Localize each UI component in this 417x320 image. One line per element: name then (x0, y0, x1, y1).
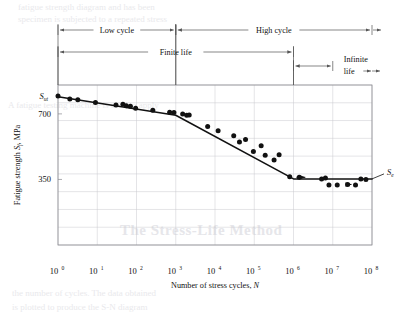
x-tick-2: 102 (128, 265, 143, 276)
x-axis-title: Number of stress cycles, N (171, 281, 260, 290)
data-point (150, 108, 155, 113)
y-axis-tick-labels: 700350 (38, 109, 62, 185)
x-tick-exponent: 0 (62, 265, 65, 271)
fatigue-sn-diagram: Low cycleHigh cycleFinite lifeInfiniteli… (0, 0, 417, 320)
x-tick-mantissa: 10 (285, 266, 294, 276)
data-point (272, 157, 277, 162)
x-tick-exponent: 3 (179, 265, 182, 271)
data-point (353, 183, 358, 188)
x-tick-exponent: 5 (258, 265, 261, 271)
x-tick-mantissa: 10 (325, 266, 334, 276)
x-tick-5: 105 (246, 265, 261, 276)
x-tick-3: 103 (168, 265, 183, 276)
annotation-label-2: life (344, 67, 355, 76)
data-point (113, 103, 118, 108)
annotation-label: Finite life (160, 48, 192, 57)
x-tick-mantissa: 10 (364, 266, 373, 276)
marker-sut: Sut (39, 91, 48, 102)
x-tick-mantissa: 10 (50, 266, 59, 276)
sn-diagram-svg: Low cycleHigh cycleFinite lifeInfiniteli… (0, 0, 417, 320)
x-tick-exponent: 8 (376, 265, 379, 271)
x-axis-tick-labels: 100101102103104105106107108 (50, 265, 379, 276)
se-leader-line (372, 174, 384, 179)
annotation-label: Infinite (344, 55, 368, 64)
x-tick-exponent: 4 (219, 265, 222, 271)
x-tick-mantissa: 10 (207, 266, 216, 276)
y-tick-700: 700 (38, 109, 51, 119)
data-point (251, 149, 256, 154)
x-tick-exponent: 6 (297, 265, 300, 271)
y-tick-350: 350 (38, 174, 51, 184)
se-label: Se (387, 167, 394, 178)
data-point (323, 176, 328, 181)
x-tick-exponent: 1 (101, 265, 104, 271)
data-point (187, 112, 192, 117)
data-point (237, 140, 242, 145)
data-point (326, 183, 331, 188)
data-point (75, 97, 80, 102)
data-point (231, 133, 236, 138)
x-tick-0: 100 (50, 265, 65, 276)
x-tick-8: 108 (364, 265, 379, 276)
annotations-layer: Low cycleHigh cycleFinite lifeInfiniteli… (58, 24, 381, 85)
data-point (167, 110, 172, 115)
data-point (171, 110, 176, 115)
data-point (67, 96, 72, 101)
data-point (287, 174, 292, 179)
marker-se: Se (372, 167, 394, 179)
x-tick-6: 106 (285, 265, 300, 276)
x-tick-1: 101 (89, 265, 104, 276)
data-point (133, 106, 138, 111)
svg-text:Fatigue strength Sf, MPa: Fatigue strength Sf, MPa (13, 125, 23, 206)
x-tick-mantissa: 10 (168, 266, 177, 276)
data-point (263, 153, 268, 158)
x-tick-mantissa: 10 (89, 266, 98, 276)
x-tick-exponent: 7 (336, 265, 339, 271)
x-tick-mantissa: 10 (246, 266, 255, 276)
sut-label: Sut (39, 91, 48, 102)
x-tick-7: 107 (325, 265, 340, 276)
y-axis-title: Fatigue strength Sf, MPa (13, 125, 23, 206)
x-tick-mantissa: 10 (128, 266, 137, 276)
data-point (216, 128, 221, 133)
data-point (56, 94, 61, 99)
data-point (243, 137, 248, 142)
data-point (277, 152, 282, 157)
x-tick-4: 104 (207, 265, 222, 276)
data-point (128, 104, 133, 109)
annotation-label: High cycle (256, 26, 292, 35)
data-points-layer (56, 94, 369, 188)
data-point (363, 177, 368, 182)
data-point (205, 124, 210, 129)
annotation-low-cycle: Low cycle (58, 24, 176, 85)
data-point (93, 100, 98, 105)
data-point (358, 176, 363, 181)
data-point (335, 183, 340, 188)
svg-text:Number of stress cycles, N: Number of stress cycles, N (171, 281, 260, 290)
annotation-infinite-life: Infinitelife (294, 55, 381, 85)
x-tick-exponent: 2 (140, 265, 143, 271)
data-point (259, 143, 264, 148)
grid-layer (58, 85, 372, 245)
annotation-label: Low cycle (100, 26, 135, 35)
